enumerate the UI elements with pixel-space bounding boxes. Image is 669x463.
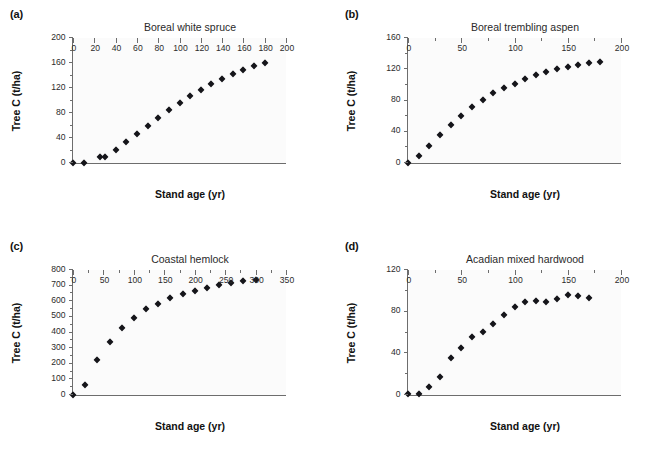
y-tick-label: 400 (51, 326, 65, 336)
x-tick: 60 (137, 38, 138, 43)
x-tick: 20 (94, 38, 95, 43)
y-tick-label: 120 (386, 63, 400, 73)
data-point (575, 293, 581, 299)
data-point (230, 70, 236, 76)
plot-inner-b (408, 38, 621, 163)
y-tick-label: 160 (386, 32, 400, 42)
y-tick-label: 0 (396, 157, 401, 167)
x-tick: 50 (461, 270, 462, 275)
y-tick: 160 (69, 62, 74, 63)
x-tick: 0 (73, 270, 74, 275)
x-tick-label: 0 (407, 43, 412, 53)
data-point (511, 303, 517, 309)
x-tick: 350 (286, 270, 287, 275)
x-tick-label: 200 (189, 275, 203, 285)
data-point (134, 130, 140, 136)
x-tick-minor (488, 270, 489, 273)
data-point (94, 356, 100, 362)
panel-title-c: Coastal hemlock (60, 253, 320, 265)
x-tick-label: 50 (457, 275, 467, 285)
x-axis-label-c: Stand age (yr) (60, 420, 320, 432)
x-tick-label: 350 (280, 275, 294, 285)
y-tick-label: 0 (61, 389, 66, 399)
x-tick: 0 (73, 38, 74, 43)
x-tick-label: 50 (100, 275, 110, 285)
plot-inner-c (73, 270, 286, 395)
x-tick-label: 150 (562, 275, 576, 285)
y-tick-minor (70, 100, 73, 101)
data-point (426, 383, 432, 389)
x-tick-label: 20 (91, 43, 101, 53)
y-tick-label: 600 (51, 295, 65, 305)
data-point (240, 278, 246, 284)
data-point (167, 295, 173, 301)
y-tick-label: 200 (51, 32, 65, 42)
x-tick: 80 (158, 38, 159, 43)
x-tick: 100 (180, 38, 181, 43)
y-tick-minor (70, 386, 73, 387)
plot-area-c: 0100200300400500600700800050100150200250… (72, 270, 286, 396)
y-tick-label: 80 (391, 305, 401, 315)
data-point (191, 287, 197, 293)
y-tick-minor (405, 290, 408, 291)
data-point (155, 114, 161, 120)
x-tick-label: 50 (457, 43, 467, 53)
panel-title-d: Acadian mixed hardwood (395, 253, 655, 265)
x-tick-label: 100 (508, 43, 522, 53)
data-point (261, 59, 267, 65)
data-point (586, 294, 592, 300)
y-axis-label-d: Tree C (t/ha) (343, 270, 359, 396)
data-point (554, 65, 560, 71)
y-tick-minor (70, 355, 73, 356)
x-tick-label: 200 (615, 275, 629, 285)
y-axis-label-b: Tree C (t/ha) (343, 38, 359, 164)
y-tick-minor (70, 292, 73, 293)
data-point (426, 143, 432, 149)
data-point (80, 159, 86, 165)
y-tick-label: 500 (51, 310, 65, 320)
panel-label-d: (d) (345, 240, 358, 252)
plot-inner-a (73, 38, 286, 163)
data-point (144, 122, 150, 128)
panel-d: (d) Acadian mixed hardwood Tree C (t/ha)… (335, 232, 669, 463)
data-point (469, 104, 475, 110)
y-tick: 80 (404, 100, 409, 101)
y-tick-label: 40 (56, 132, 66, 142)
data-point (179, 291, 185, 297)
y-axis-label-c: Tree C (t/ha) (8, 270, 24, 396)
x-tick-minor (541, 270, 542, 273)
data-point (501, 312, 507, 318)
panel-title-b: Boreal trembling aspen (395, 21, 655, 33)
x-tick-label: 200 (615, 43, 629, 53)
x-tick-label: 0 (72, 43, 77, 53)
data-point (415, 391, 421, 397)
plot-area-d: 04080120050100150200 (407, 270, 621, 396)
y-tick-minor (405, 332, 408, 333)
x-tick-minor (594, 270, 595, 273)
data-point (106, 338, 112, 344)
x-tick: 50 (103, 270, 104, 275)
y-tick: 500 (69, 316, 74, 317)
y-tick-minor (70, 324, 73, 325)
data-point (123, 139, 129, 145)
x-tick: 250 (225, 270, 226, 275)
y-tick-label: 0 (61, 157, 66, 167)
x-axis-label-a: Stand age (yr) (60, 188, 320, 200)
y-tick: 600 (69, 300, 74, 301)
data-point (415, 153, 421, 159)
x-tick-label: 0 (72, 275, 77, 285)
x-tick: 0 (408, 270, 409, 275)
y-tick-label: 160 (51, 57, 65, 67)
x-tick-minor (435, 270, 436, 273)
data-point (543, 68, 549, 74)
y-tick: 120 (404, 68, 409, 69)
y-tick-minor (405, 115, 408, 116)
y-tick: 0 (69, 162, 74, 163)
x-tick-label: 200 (280, 43, 294, 53)
x-tick: 100 (515, 270, 516, 275)
panel-label-b: (b) (345, 8, 358, 20)
y-tick-label: 200 (51, 357, 65, 367)
x-tick-minor (488, 38, 489, 41)
panel-a: (a) Boreal white spruce Tree C (t/ha) 04… (0, 0, 334, 231)
data-point (490, 89, 496, 95)
